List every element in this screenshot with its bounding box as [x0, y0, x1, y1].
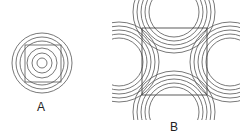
figure-a: [12, 33, 72, 93]
figure-b-label: B: [170, 121, 178, 133]
figure-b: [79, 0, 241, 140]
diagram-canvas: [0, 0, 241, 140]
figure-a-label: A: [37, 101, 45, 113]
